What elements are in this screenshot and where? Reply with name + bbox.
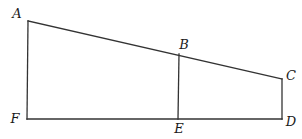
vertex-label-E: E — [173, 121, 184, 136]
edge-AC — [28, 21, 282, 79]
edge-BE — [178, 54, 179, 119]
vertex-label-C: C — [286, 68, 296, 83]
vertex-label-D: D — [285, 114, 297, 129]
trapezoid-figure: ABCDEF — [0, 0, 302, 139]
vertex-label-F: F — [9, 111, 20, 126]
vertex-label-A: A — [11, 6, 21, 21]
vertex-label-B: B — [178, 37, 189, 52]
diagram-canvas: ABCDEF — [0, 0, 302, 139]
edge-AF — [27, 21, 28, 119]
